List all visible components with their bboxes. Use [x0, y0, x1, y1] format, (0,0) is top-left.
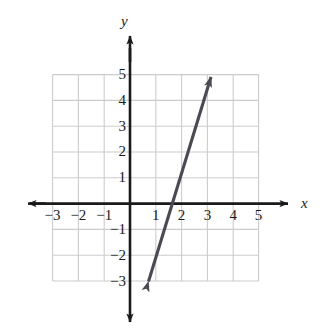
grid-lines	[53, 75, 259, 281]
x-tick-label-neg3: −3	[43, 208, 63, 223]
x-tick-label-4: 4	[223, 208, 243, 223]
y-tick-label-neg2: −2	[101, 248, 126, 263]
y-tick-label-4: 4	[106, 93, 126, 108]
x-axis-label: x	[301, 196, 308, 211]
x-tick-label-2: 2	[172, 208, 192, 223]
y-tick-label-3: 3	[106, 119, 126, 134]
y-tick-label-5: 5	[106, 67, 126, 82]
coordinate-plane-figure: x y −3 −2 −1 1 2 3 4 5 5 4 3 2 1 −1 −2 −…	[0, 0, 323, 335]
axes	[28, 36, 288, 322]
y-axis-label: y	[121, 14, 128, 29]
x-tick-label-1: 1	[146, 208, 166, 223]
plotted-line	[149, 77, 212, 282]
x-tick-label-3: 3	[197, 208, 217, 223]
x-tick-label-neg2: −2	[68, 208, 88, 223]
y-tick-label-1: 1	[106, 170, 126, 185]
graph-canvas	[0, 0, 323, 335]
y-tick-label-2: 2	[106, 144, 126, 159]
y-tick-label-neg1: −1	[101, 222, 126, 237]
y-tick-label-neg3: −3	[101, 274, 126, 289]
x-tick-label-5: 5	[249, 208, 269, 223]
